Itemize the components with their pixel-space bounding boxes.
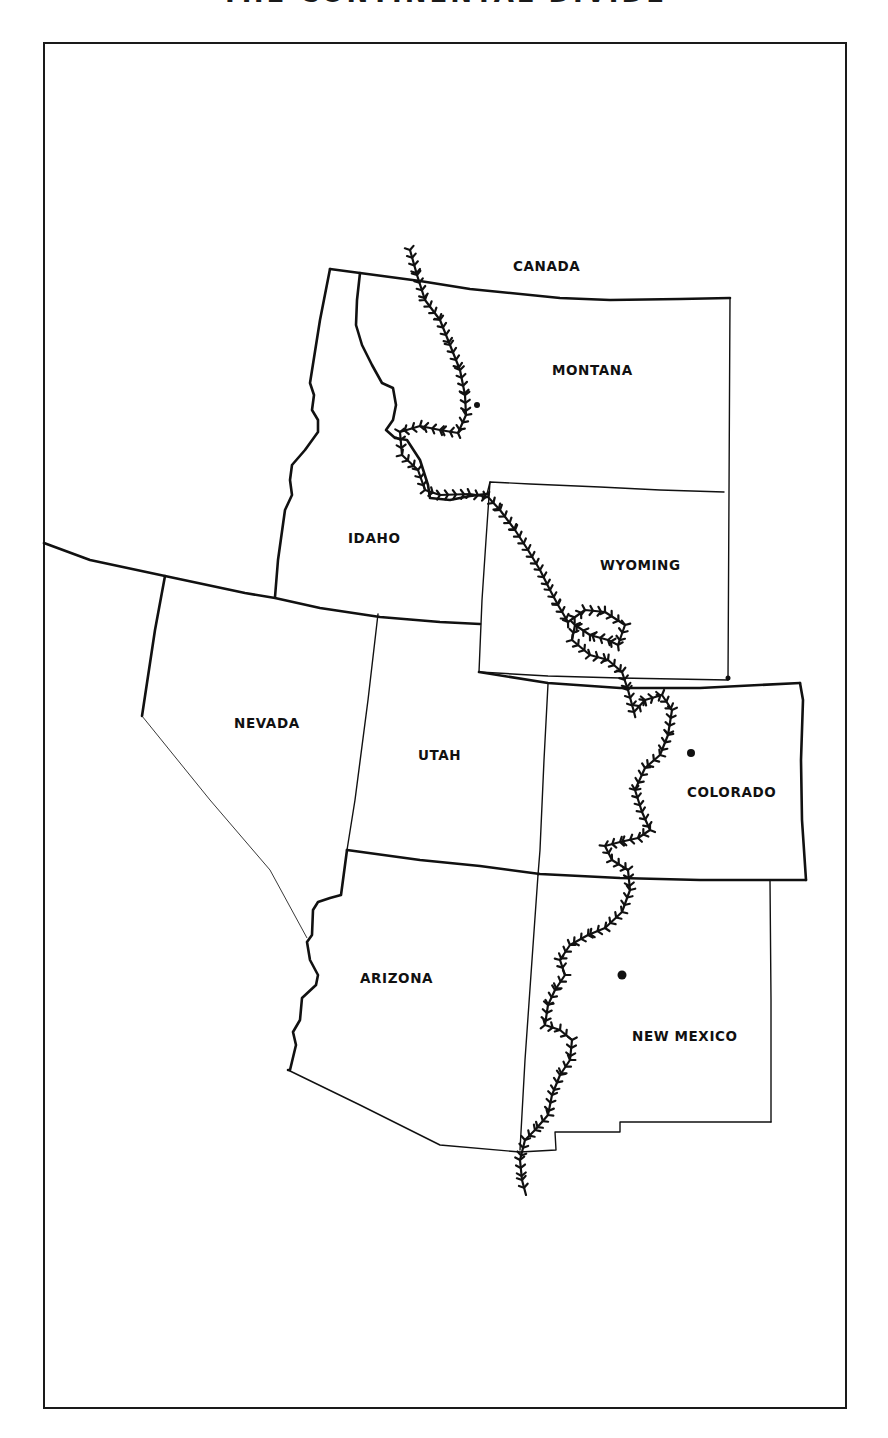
city-dot-icon — [474, 402, 480, 408]
wyoming-west-border — [479, 482, 490, 672]
divide-chevron-icon — [405, 246, 414, 250]
idaho-west-border — [275, 269, 330, 597]
nevada-utah-border — [347, 614, 378, 850]
arizona-west-border — [288, 850, 347, 1070]
label-idaho: IDAHO — [348, 530, 400, 546]
divide-chevron-icon — [567, 635, 573, 642]
divide-chevron-icon — [563, 620, 568, 627]
map-canvas: CANADA MONTANA IDAHO WYOMING NEVADA UTAH… — [0, 0, 888, 1438]
new-mexico-south-border — [520, 1122, 771, 1152]
label-canada: CANADA — [513, 258, 580, 274]
divide-chevron-icon — [629, 711, 636, 717]
oregon-nevada-border — [44, 543, 480, 624]
utah-colorado-border — [538, 684, 548, 875]
arizona-newmexico-border — [520, 875, 538, 1150]
nevada-diagonal-border — [142, 716, 307, 938]
divide-chevron-icon — [541, 1020, 545, 1029]
arizona-south-border — [288, 1070, 520, 1152]
label-nevada: NEVADA — [234, 715, 300, 731]
continental-divide-ticks — [395, 246, 677, 1188]
divide-chevron-icon — [420, 421, 424, 430]
city-dot-icon — [687, 749, 695, 757]
label-wyoming: WYOMING — [600, 557, 681, 573]
divide-chevron-icon — [600, 841, 608, 846]
four-corners-line — [347, 850, 806, 880]
label-new-mexico: NEW MEXICO — [632, 1028, 738, 1044]
colorado-east-border — [800, 683, 806, 880]
label-montana: MONTANA — [552, 362, 633, 378]
divide-chevron-icon — [421, 485, 425, 494]
divide-chevron-icon — [582, 605, 585, 614]
city-dot-icon — [618, 971, 627, 980]
montana-east-border — [728, 298, 730, 680]
nevada-west-border — [142, 576, 165, 716]
divide-chevron-icon — [563, 970, 570, 975]
label-colorado: COLORADO — [687, 784, 776, 800]
new-mexico-east-border — [770, 880, 771, 1122]
label-utah: UTAH — [418, 747, 461, 763]
divide-chevron-icon — [568, 1037, 577, 1040]
wyoming-top-border — [487, 482, 724, 494]
city-markers — [474, 402, 695, 980]
continental-divide-line — [400, 250, 672, 1195]
label-arizona: ARIZONA — [360, 970, 433, 986]
divide-chevron-icon — [618, 642, 623, 650]
divide-chevron-icon — [650, 825, 655, 832]
divide-chevron-icon — [397, 450, 403, 457]
divide-chevron-icon — [627, 886, 635, 890]
